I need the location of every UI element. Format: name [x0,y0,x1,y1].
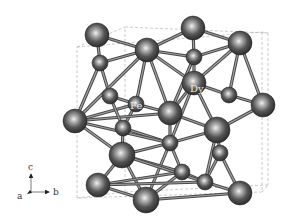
b-axis-label: b [53,187,59,197]
atom-sphere [85,23,109,47]
atom-sphere [63,109,87,133]
atom-sphere [186,49,202,65]
label-dy: Dy [190,83,204,94]
atom-sphere [135,38,159,62]
atom-sphere [102,88,118,104]
atom-sphere [181,16,205,40]
atom-sphere [158,101,182,125]
atom-sphere [115,120,131,136]
atom-sphere [228,31,252,55]
label-fe: Fe [130,100,142,111]
atom-sphere [133,187,159,213]
crystal-structure-canvas: Fe Dy c b a [0,0,289,223]
crystal-structure-figure: Fe Dy c b a [0,0,289,223]
atom-sphere [109,142,135,168]
unit-cell-edge [262,185,268,192]
atom-sphere [204,117,230,143]
c-axis-label: c [28,162,33,172]
axis-indicator: c b a [17,162,59,201]
atom-sphere [197,174,213,190]
a-axis-label: a [17,191,23,201]
atom-sphere [221,87,237,103]
atom-sphere [162,135,178,151]
atom-sphere [86,173,110,197]
atom-sphere [212,145,228,161]
atom-sphere [228,181,252,205]
bond-highlight [146,193,240,200]
atom-sphere [251,93,275,117]
atom-sphere [92,55,108,71]
atom-sphere [174,164,190,180]
